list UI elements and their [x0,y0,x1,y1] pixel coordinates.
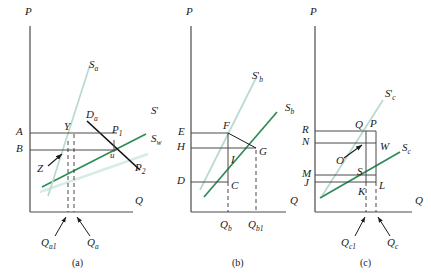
panel-a-caption: (a) [72,257,83,268]
panel-c-x-tick-label-qc-main: Q [387,236,395,248]
panel-c-price-label-n: N [302,136,309,147]
panel-b-point-label-g: G [259,146,267,157]
panel-a-x-tick-label-qa-sub: a [95,242,99,251]
panel-c-x-tick-label-qc-sub: c [395,242,398,251]
panel-b-curve-label-sb: Sb [285,102,294,116]
panel-c-curve-label-sc-prime: S'c [385,88,396,102]
panel-b-price-label-d: D [177,175,185,186]
panel-c-axis-label-q: Q [415,195,423,206]
panel-c-x-tick-label-qc: Qc [387,237,398,251]
panel-b-x-tick-label-qb1-sub: b1 [256,224,264,233]
panel-c-point-label-k: K [358,186,365,197]
panel-c-x-tick-label-qc1-main: Q [341,236,349,248]
panel-c-point-label-s: S [357,166,363,177]
panel-b-x-tick-label-qb1: Qb1 [248,219,263,233]
panel-b-x-tick-label-qb-main: Q [220,218,228,230]
figure-canvas [0,0,431,275]
panel-b-curve-label-sb-prime: S'b [252,70,263,84]
panel-b-axis-label-q: Q [290,195,298,206]
panel-c-price-label-j: J [304,177,309,188]
panel-a-x-tick-label-qa-main: Q [87,236,95,248]
panel-a-curve-label-da-main: D [86,108,94,120]
panel-c-axis-label-p: P [310,6,317,17]
panel-c-point-label-p: P [370,118,377,129]
panel-a-curve-label-s-prime-mark: ' [157,105,159,116]
panel-b-x-tick-label-qb-sub: b [228,224,232,233]
panel-a-arrow-qa1 [55,217,66,236]
panel-a-price-label-a: A [16,126,23,137]
panel-a-curve-label-sa: Sa [89,59,98,73]
panel-a-axis-label-p: P [25,6,32,17]
panel-c-curve-label-sc: Sc [402,142,411,156]
panel-c-caption: (c) [360,257,371,268]
panel-a-point-label-p2-sub: 2 [142,167,146,176]
panel-b-point-label-c: C [231,180,238,191]
panel-a-axis-label-q: Q [135,195,143,206]
panel-a-arrow-qa [77,217,90,236]
panel-a-point-label-z: Z [37,163,43,174]
panel-a-point-label-p1-main: P [112,123,119,135]
panel-a-point-label-u: u [110,151,115,160]
panel-c-price-label-r: R [302,124,309,135]
panel-a-price-label-b: B [16,143,23,154]
panel-b-graph [191,26,286,212]
panel-c-graph [315,26,412,236]
panel-a-x-tick-label-qa1-sub: a1 [49,242,57,251]
panel-c-curve-label-sc-prime-sub: c [392,93,395,102]
panel-a-curve-label-sw-sub: w [157,138,162,147]
panel-a-point-label-p1-sub: 1 [119,129,123,138]
panel-b-point-label-f: F [223,120,230,131]
panel-c-curve-label-sc-sub: c [408,147,411,156]
panel-b-x-tick-label-qb: Qb [220,219,232,233]
panel-c-arrow-qc [378,217,390,236]
panel-c-point-label-o: O [336,155,344,166]
three-panel-supply-demand-figure: P Q A B Y Z u Sa S' Sw Da P1 P2 Qa1 Qa (… [0,0,431,275]
panel-a-curve-label-da-sub: a [94,114,98,123]
panel-b-price-label-h: H [177,141,185,152]
panel-a-curve-label-sw: Sw [151,133,162,147]
panel-c-point-label-w: W [380,141,389,152]
panel-a-x-tick-label-qa1: Qa1 [41,237,56,251]
panel-a-point-label-y: Y [64,121,70,132]
panel-c-point-label-q: Q [355,119,363,130]
panel-c-point-label-l: L [379,180,385,191]
panel-a-point-label-p1: P1 [112,124,122,138]
panel-a-curve-label-sa-sub: a [95,64,99,73]
panel-c-x-tick-label-qc1-sub: c1 [349,242,356,251]
panel-a-x-tick-label-qa1-main: Q [41,236,49,248]
panel-b-axis-label-p: P [186,6,193,17]
panel-b-curve-label-sb-sub: b [291,107,295,116]
panel-b-price-label-e: E [178,126,185,137]
panel-b-curve-label-sb-prime-sub: b [259,75,263,84]
panel-b-point-label-i: I [231,154,235,165]
panel-b-caption: (b) [232,257,244,268]
panel-a-point-label-p2: P2 [135,162,145,176]
panel-a-point-label-p2-main: P [135,161,142,173]
panel-a-curve-label-s-prime: S' [151,105,158,116]
panel-c-arrow-qc1 [355,217,365,236]
panel-a-x-tick-label-qa: Qa [87,237,99,251]
panel-b-x-tick-label-qb1-main: Q [248,218,256,230]
panel-a-curve-label-da: Da [86,109,98,123]
panel-c-x-tick-label-qc1: Qc1 [341,237,356,251]
